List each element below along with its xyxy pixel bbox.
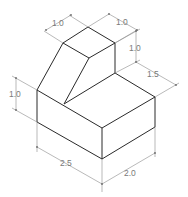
dim-base-height: 1.0 (9, 76, 37, 122)
dim-label-step-height: 1.0 (129, 43, 141, 53)
dimension-arrowheads (15, 13, 177, 185)
dim-label-base-width: 2.0 (124, 168, 136, 178)
dim-step-depth: 1.5 (136, 62, 179, 97)
slope-left-edge (37, 43, 63, 90)
step-back-edge (64, 73, 115, 104)
dim-top-left-depth: 1.0 (44, 15, 88, 43)
dim-label-step-depth: 1.5 (147, 69, 159, 79)
dim-base-length: 2.5 (37, 122, 102, 192)
isometric-part-drawing: 1.0 1.0 1.0 1.5 1.0 (0, 0, 188, 197)
dim-label-base-length: 2.5 (60, 158, 72, 168)
dim-label-top-right: 1.0 (116, 17, 128, 27)
upper-top-face (63, 27, 115, 58)
dim-upper-step-height: 1.0 (115, 29, 141, 73)
slope-right-edge (64, 58, 89, 104)
dim-label-top-left: 1.0 (52, 18, 64, 28)
dim-top-right-width: 1.0 (88, 14, 137, 43)
dim-label-base-height: 1.0 (9, 89, 21, 99)
base-bottom-edges (37, 122, 155, 159)
drawing-canvas: 1.0 1.0 1.0 1.5 1.0 (0, 0, 188, 197)
base-top-edges (37, 90, 155, 128)
dim-base-width: 2.0 (102, 127, 155, 184)
